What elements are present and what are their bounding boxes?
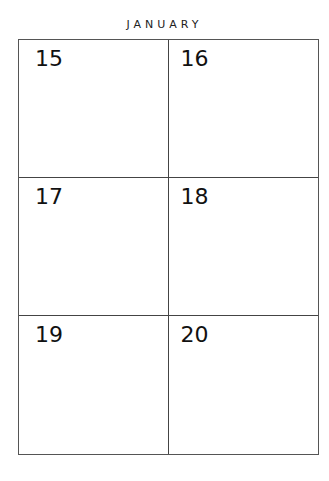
day-cell[interactable]: 19: [19, 316, 169, 454]
day-number: 19: [35, 322, 63, 347]
calendar-grid: 15 16 17 18 19 20: [18, 39, 319, 455]
day-cell[interactable]: 16: [169, 40, 319, 178]
day-cell[interactable]: 20: [169, 316, 319, 454]
day-number: 20: [181, 322, 209, 347]
month-title: JANUARY: [0, 18, 329, 31]
day-cell[interactable]: 15: [19, 40, 169, 178]
day-number: 17: [35, 184, 63, 209]
day-cell[interactable]: 18: [169, 178, 319, 316]
day-cell[interactable]: 17: [19, 178, 169, 316]
day-number: 18: [181, 184, 209, 209]
day-number: 15: [35, 46, 63, 71]
day-number: 16: [181, 46, 209, 71]
